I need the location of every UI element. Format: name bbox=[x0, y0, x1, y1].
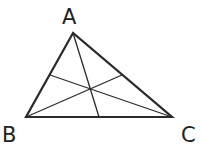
vertex-label-a: A bbox=[62, 5, 77, 29]
median-from-a bbox=[73, 33, 99, 117]
triangle-abc bbox=[26, 33, 172, 117]
vertex-label-b: B bbox=[2, 123, 16, 147]
median-from-c bbox=[50, 75, 172, 117]
vertex-label-c: C bbox=[181, 123, 196, 147]
triangle-diagram: A B C bbox=[0, 0, 202, 147]
median-from-b bbox=[26, 75, 122, 117]
